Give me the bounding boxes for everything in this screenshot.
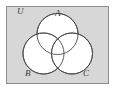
- set-c-label: C: [83, 68, 90, 78]
- set-a-label: A: [54, 8, 61, 18]
- universal-set-label: U: [17, 6, 24, 16]
- venn-diagram-canvas: U A B C: [0, 0, 115, 92]
- venn-diagram-figure: U A B C: [0, 0, 115, 92]
- set-b-label: B: [25, 68, 31, 78]
